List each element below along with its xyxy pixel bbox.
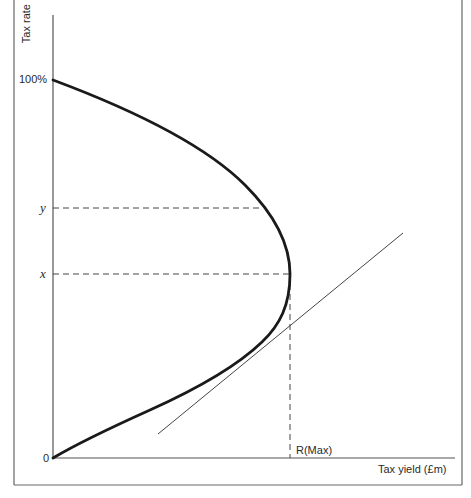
y-axis-label: Tax rate (20, 4, 32, 64)
tangent-line (158, 233, 403, 434)
laffer-curve (53, 80, 290, 458)
x-axis-label: Tax yield (£m) (378, 463, 446, 475)
tick-0: 0 (43, 452, 49, 464)
tick-100-percent: 100% (19, 73, 47, 85)
tick-y: y (40, 200, 46, 216)
tick-x: x (40, 266, 46, 282)
rmax-label: R(Max) (296, 444, 332, 456)
laffer-curve-chart (0, 0, 471, 498)
